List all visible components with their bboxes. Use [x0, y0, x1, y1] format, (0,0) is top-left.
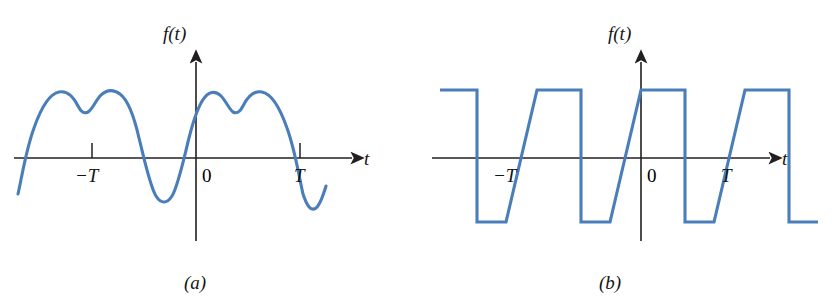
figure-panel-a: f(t) t −T 0 T (a) — [0, 0, 418, 305]
y-axis-label-a: f(t) — [163, 23, 186, 45]
panel-b-plot: f(t) t −T 0 T (b) — [418, 0, 836, 305]
tick-label-plus-T-a: T — [294, 165, 306, 186]
x-axis-label-b: t — [782, 148, 788, 169]
tick-label-zero-a: 0 — [202, 165, 212, 186]
panel-a-plot: f(t) t −T 0 T (a) — [0, 0, 418, 305]
waveform-curve-b — [440, 90, 818, 222]
figure-panel-b: f(t) t −T 0 T (b) — [418, 0, 836, 305]
waveform-curve-a — [18, 91, 326, 209]
tick-label-plus-T-b: T — [721, 165, 733, 186]
tick-label-zero-b: 0 — [647, 165, 657, 186]
tick-label-minus-T-b: −T — [493, 165, 518, 186]
y-axis-label-b: f(t) — [608, 23, 631, 45]
x-axis-label-a: t — [364, 148, 370, 169]
figure-sheet: f(t) t −T 0 T (a) f — [0, 0, 836, 305]
panel-caption-b: (b) — [599, 272, 621, 294]
panel-caption-a: (a) — [184, 272, 206, 294]
tick-label-minus-T-a: −T — [75, 165, 100, 186]
